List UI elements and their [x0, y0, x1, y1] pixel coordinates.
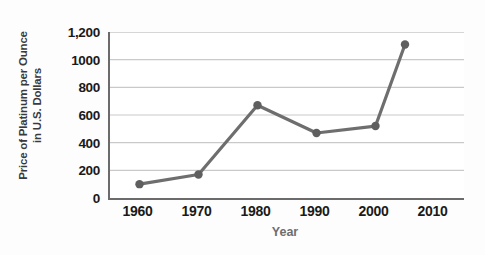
y-axis-tick-label: 400 — [78, 135, 100, 150]
gridlines — [110, 32, 464, 170]
data-markers — [135, 40, 409, 188]
data-point — [253, 101, 261, 109]
y-axis-title: Price of Platinum per Ounce in U.S. Doll… — [0, 0, 60, 210]
y-axis-tick-label: 1000 — [71, 52, 100, 67]
data-point — [401, 40, 409, 48]
plot-svg — [110, 32, 464, 198]
y-axis-tick-label: 1,200 — [68, 25, 100, 40]
data-line — [140, 44, 406, 184]
x-axis-tick-label: 2010 — [418, 203, 448, 219]
x-axis-tick-label: 1990 — [300, 203, 330, 219]
y-axis-tick-labels: 020040060080010001,200 — [52, 0, 104, 210]
data-point — [312, 129, 320, 137]
plot-area — [108, 32, 464, 200]
y-axis-title-line-2: in U.S. Dollars — [30, 31, 44, 180]
y-axis-tick-label: 800 — [78, 80, 100, 95]
y-axis-tick-label: 200 — [78, 163, 100, 178]
x-axis-tick-label: 2000 — [359, 203, 389, 219]
x-axis-tick-label: 1970 — [182, 203, 212, 219]
data-point — [194, 170, 202, 178]
x-axis-tick-label: 1980 — [241, 203, 271, 219]
y-axis-title-line-1: Price of Platinum per Ounce — [17, 31, 31, 180]
y-axis-tick-label: 600 — [78, 108, 100, 123]
data-point — [371, 122, 379, 130]
line-chart: Price of Platinum per Ounce in U.S. Doll… — [0, 0, 485, 255]
x-axis-tick-labels: 196019701980199020002010 — [0, 203, 485, 225]
data-point — [135, 180, 143, 188]
x-axis-tick-label: 1960 — [123, 203, 153, 219]
x-axis-title: Year — [108, 225, 462, 239]
